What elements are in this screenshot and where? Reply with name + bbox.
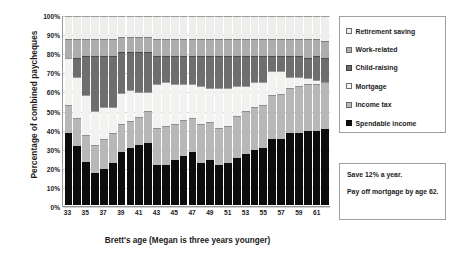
bar-column[interactable]	[313, 16, 321, 205]
bar-segment	[197, 16, 205, 39]
bar-segment	[135, 92, 143, 118]
bar-column[interactable]	[259, 16, 267, 205]
bar-segment	[91, 39, 99, 56]
legend-item-child-raising: Child-raising	[346, 59, 440, 77]
bar-segment	[251, 150, 259, 205]
bar-column[interactable]	[109, 16, 117, 205]
bar-column[interactable]	[286, 16, 294, 205]
bar-segment	[321, 129, 329, 205]
bar-segment	[197, 86, 205, 124]
bar-segment	[82, 39, 90, 56]
bar-segment	[91, 173, 99, 205]
bar-segment	[242, 16, 250, 39]
bar-column[interactable]	[82, 16, 90, 205]
legend-item-label: Mortgage	[356, 83, 387, 90]
bar-column[interactable]	[295, 16, 303, 205]
bar-segment	[109, 133, 117, 163]
bar-segment	[162, 56, 170, 82]
x-axis-tick-label: 49	[206, 209, 213, 216]
legend-item-label: Retirement saving	[356, 28, 416, 35]
bar-segment	[224, 56, 232, 88]
bar-segment	[100, 39, 108, 56]
bar-segment	[295, 16, 303, 39]
bar-segment	[127, 148, 135, 205]
bar-column[interactable]	[242, 16, 250, 205]
bar-column[interactable]	[321, 16, 329, 205]
bar-column[interactable]	[197, 16, 205, 205]
bar-segment	[189, 56, 197, 84]
bar-column[interactable]	[171, 16, 179, 205]
bar-column[interactable]	[251, 16, 259, 205]
x-axis-tick-label: 57	[277, 209, 284, 216]
bar-column[interactable]	[127, 16, 135, 205]
bar-segment	[91, 145, 99, 173]
bar-segment	[259, 56, 267, 82]
notes-box: Save 12% a year. Pay off mortgage by age…	[339, 163, 446, 220]
bar-segment	[127, 121, 135, 148]
y-axis-tick-label: 10%	[47, 184, 60, 191]
bar-column[interactable]	[206, 16, 214, 205]
bar-segment	[215, 128, 223, 166]
legend-item-retirement-saving: Retirement saving	[346, 22, 440, 40]
x-axis-tick-label: 47	[188, 209, 195, 216]
bar-segment	[233, 16, 241, 39]
bar-segment	[295, 77, 303, 86]
bar-segment	[286, 133, 294, 205]
bar-column[interactable]	[73, 16, 81, 205]
bar-segment	[233, 158, 241, 205]
bar-segment	[153, 165, 161, 205]
bar-column[interactable]	[180, 16, 188, 205]
bar-column[interactable]	[277, 16, 285, 205]
bar-segment	[100, 107, 108, 139]
bar-column[interactable]	[135, 16, 143, 205]
bar-segment	[109, 39, 117, 56]
bar-column[interactable]	[233, 16, 241, 205]
plot-area	[62, 16, 330, 207]
bar-segment	[189, 118, 197, 152]
bar-column[interactable]	[144, 16, 152, 205]
legend-item-label: Spendable income	[356, 120, 417, 127]
bar-segment	[109, 107, 117, 133]
bar-segment	[233, 39, 241, 56]
bar-segment	[242, 111, 250, 154]
bar-segment	[91, 111, 99, 145]
bar-segment	[251, 82, 259, 107]
bar-segment	[304, 58, 312, 79]
bar-segment	[118, 37, 126, 52]
bar-segment	[171, 39, 179, 56]
bar-segment	[268, 39, 276, 56]
bar-segment	[100, 169, 108, 205]
bar-column[interactable]	[153, 16, 161, 205]
bar-segment	[135, 117, 143, 144]
x-axis-tick-labels: 333537394143454749515355575961	[63, 209, 330, 221]
bar-segment	[144, 143, 152, 205]
bar-column[interactable]	[65, 16, 73, 205]
bar-segment	[82, 56, 90, 96]
bar-segment	[321, 16, 329, 41]
bar-segment	[118, 52, 126, 93]
bar-column[interactable]	[215, 16, 223, 205]
bar-segment	[135, 145, 143, 205]
y-axis-tick-label: 0%	[50, 204, 60, 211]
bar-segment	[313, 16, 321, 39]
bar-column[interactable]	[189, 16, 197, 205]
bar-segment	[304, 84, 312, 131]
x-axis-tick-label: 43	[153, 209, 160, 216]
bar-segment	[118, 152, 126, 205]
bar-column[interactable]	[224, 16, 232, 205]
bar-segment	[277, 56, 285, 71]
bar-segment	[197, 124, 205, 164]
bar-segment	[206, 160, 214, 205]
bar-segment	[118, 124, 126, 151]
bar-segment	[73, 58, 81, 77]
bar-column[interactable]	[304, 16, 312, 205]
bar-column[interactable]	[100, 16, 108, 205]
bar-segment	[118, 16, 126, 37]
bar-column[interactable]	[91, 16, 99, 205]
bar-segment	[313, 56, 321, 81]
bar-segment	[189, 152, 197, 205]
bar-segment	[304, 16, 312, 39]
bar-column[interactable]	[118, 16, 126, 205]
bar-column[interactable]	[162, 16, 170, 205]
bar-column[interactable]	[268, 16, 276, 205]
